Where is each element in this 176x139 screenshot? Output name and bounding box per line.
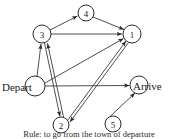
- edge-3-to-2: [45, 43, 61, 117]
- graph-diagram: 4 3 1 Depart Arrive 2: [0, 0, 176, 139]
- node-depart[interactable]: Depart: [2, 76, 45, 96]
- edge-depart-to-arrive: [45, 86, 130, 87]
- edge-3-to-4: [50, 16, 78, 30]
- edge-depart-to-3: [37, 44, 41, 77]
- node-4[interactable]: 4: [78, 5, 94, 21]
- graph-canvas: 4 3 1 Depart Arrive 2: [0, 0, 176, 139]
- node-5-label: 5: [111, 120, 116, 130]
- node-1[interactable]: 1: [123, 25, 141, 43]
- node-3[interactable]: 3: [33, 25, 51, 43]
- edge-1-to-2: [70, 43, 129, 123]
- node-layer: 4 3 1 Depart Arrive 2: [2, 5, 162, 133]
- node-2-label: 2: [59, 121, 64, 131]
- node-depart-label: Depart: [2, 81, 32, 93]
- node-arrive[interactable]: Arrive: [130, 76, 162, 94]
- node-1-label: 1: [130, 30, 135, 40]
- node-arrive-label: Arrive: [133, 80, 162, 92]
- node-3-label: 3: [40, 30, 45, 40]
- edge-4-to-1: [93, 17, 124, 30]
- figure-caption: Rule: to go from the town of departure: [2, 130, 176, 139]
- edge-2-to-1: [68, 41, 127, 121]
- edge-layer: [37, 16, 135, 122]
- edge-5-to-arrive: [110, 93, 135, 117]
- node-4-label: 4: [84, 9, 89, 19]
